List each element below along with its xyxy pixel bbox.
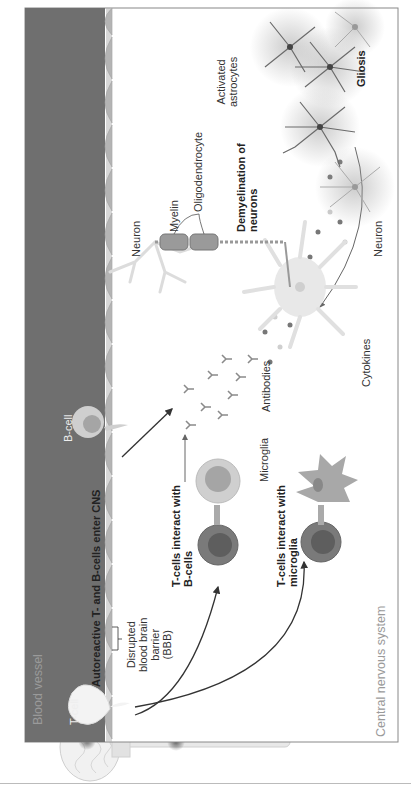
astrocytes-label: Activated astrocytes xyxy=(215,57,239,107)
antibodies-label: Antibodies xyxy=(260,361,272,412)
bbb-line4: (BBB) xyxy=(161,618,173,672)
enter-cns-label: Autoreactive T- and B-cells enter CNS xyxy=(90,490,102,687)
b-cell-label: B-cell xyxy=(62,414,74,442)
bbb-line3: barrier xyxy=(149,618,161,672)
demyelination-label: Demyelination of neurons xyxy=(235,143,259,232)
astro-line2: astrocytes xyxy=(227,57,239,107)
t-microglia-interact-label: T-cells interact with microglia xyxy=(275,485,299,587)
neuron-left-label: Neuron xyxy=(130,221,142,257)
tm-line1: T-cells interact with xyxy=(275,485,287,587)
cns-label: Central nervous system xyxy=(375,606,387,737)
microglia-label: Microglia xyxy=(258,438,270,482)
demy-line1: Demyelination of xyxy=(235,143,247,232)
t-cell-label: T-cell xyxy=(68,699,80,725)
oligodendrocyte-label: Oligodendrocyte xyxy=(192,132,204,212)
bbb-label: Disrupted blood brain barrier (BBB) xyxy=(125,618,173,672)
bbb-line2: blood brain xyxy=(137,618,149,672)
myelin-label: Myelin xyxy=(168,200,180,232)
ms-pathology-diagram: Blood vessel T-cell B-cell Autoreactive … xyxy=(0,0,411,787)
tb-line2: B-cells xyxy=(182,485,194,587)
demy-line2: neurons xyxy=(247,143,259,232)
blood-vessel-label: Blood vessel xyxy=(32,654,44,725)
t-b-interact-label: T-cells interact with B-cells xyxy=(170,485,194,587)
bbb-line1: Disrupted xyxy=(125,618,137,672)
astro-line1: Activated xyxy=(215,57,227,107)
neuron-right-label: Neuron xyxy=(372,221,384,257)
diagram-graphics xyxy=(0,0,411,787)
gliosis-label: Gliosis xyxy=(355,50,367,87)
cytokines-label: Cytokines xyxy=(360,339,372,387)
tb-line1: T-cells interact with xyxy=(170,485,182,587)
tm-line2: microglia xyxy=(287,485,299,587)
